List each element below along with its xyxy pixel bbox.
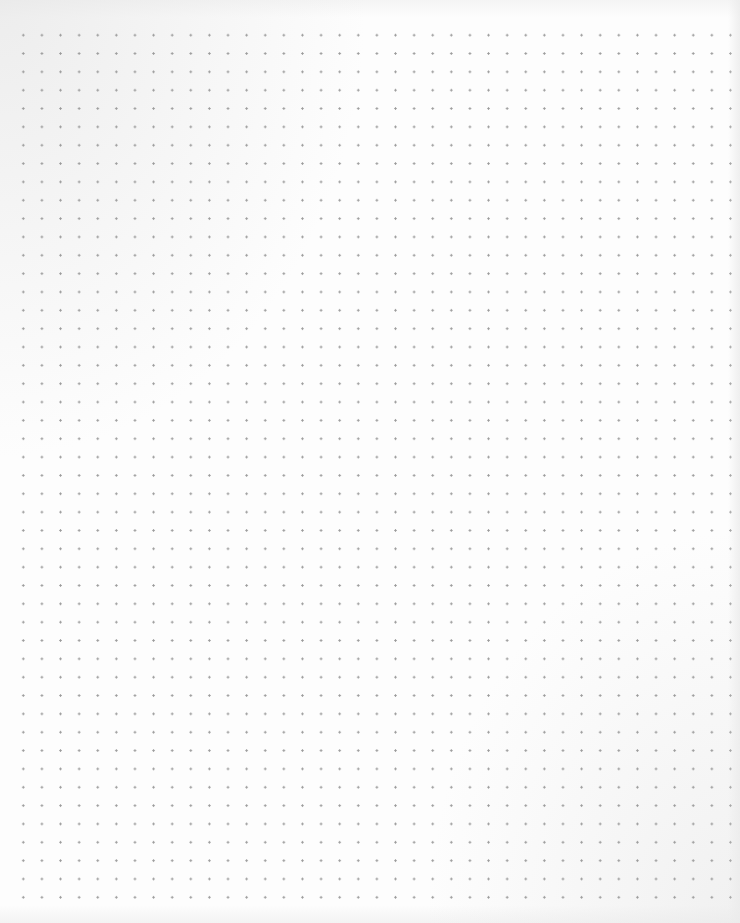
- paper-edge-shadow: [728, 0, 740, 923]
- paper-sheet: [0, 0, 740, 923]
- dot-grid: [14, 26, 734, 906]
